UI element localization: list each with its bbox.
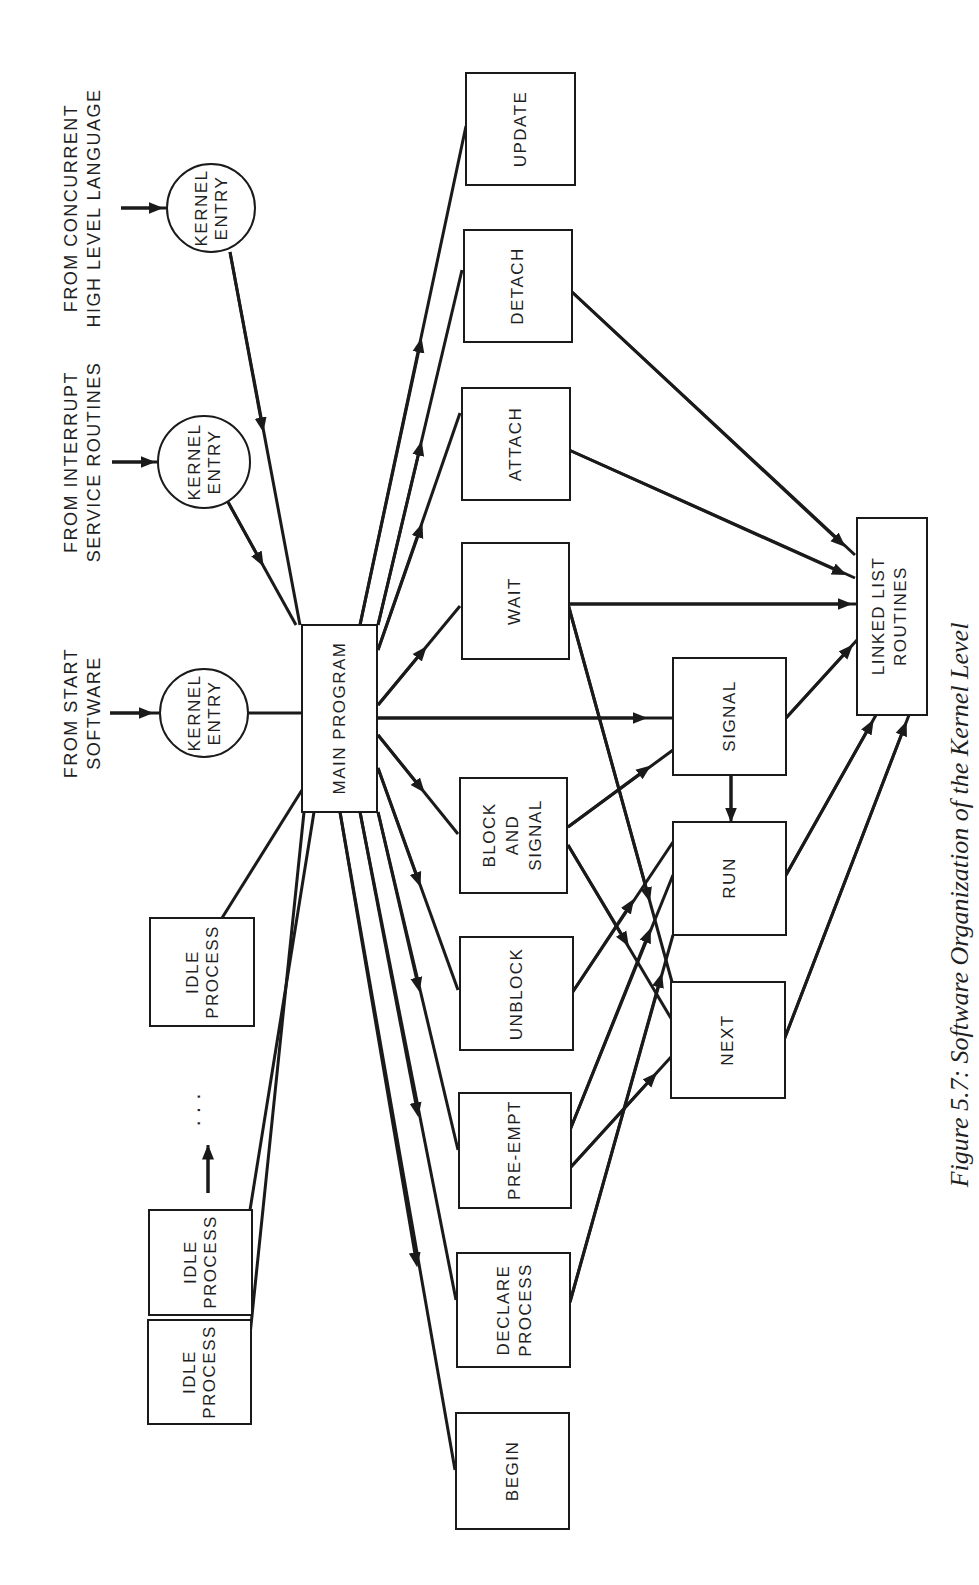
primitive-declare-process: DECLARE PROCESS xyxy=(457,1253,570,1367)
svg-text:SIGNAL: SIGNAL xyxy=(720,680,739,751)
kernel-entry-label-3a: KERNEL xyxy=(192,169,211,246)
svg-text:IDLE: IDLE xyxy=(181,1240,200,1284)
svg-text:WAIT: WAIT xyxy=(505,577,524,625)
kernel-entry-start: KERNEL ENTRY xyxy=(160,669,248,757)
primitive-block-and-signal: BLOCK AND SIGNAL xyxy=(460,778,567,893)
kernel-entry-label-1a: KERNEL xyxy=(185,674,204,751)
svg-text:DETACH: DETACH xyxy=(508,247,527,325)
source-interrupt-line2: SERVICE ROUTINES xyxy=(84,362,104,563)
primitive-detach: DETACH xyxy=(464,230,572,342)
svg-text:PROCESS: PROCESS xyxy=(200,1325,219,1419)
source-labels: FROM START SOFTWARE FROM INTERRUPT SERVI… xyxy=(61,89,104,779)
source-interrupt-line1: FROM INTERRUPT xyxy=(61,371,81,553)
svg-text:BLOCK: BLOCK xyxy=(480,802,499,867)
svg-text:RUN: RUN xyxy=(720,857,739,898)
kernel-entry-concurrent: KERNEL ENTRY xyxy=(167,164,255,252)
ellipsis: · · · xyxy=(185,1093,210,1127)
svg-text:PROCESS: PROCESS xyxy=(203,925,222,1019)
scheduler-run: RUN xyxy=(673,822,786,935)
primitive-pre-empt: PRE-EMPT xyxy=(459,1093,571,1208)
svg-text:BEGIN: BEGIN xyxy=(503,1441,522,1501)
svg-text:PRE-EMPT: PRE-EMPT xyxy=(505,1100,524,1200)
kernel-organization-diagram: FROM START SOFTWARE FROM INTERRUPT SERVI… xyxy=(0,0,979,1585)
linked-list-routines: LINKED LIST ROUTINES xyxy=(857,518,927,715)
svg-text:LINKED LIST: LINKED LIST xyxy=(869,557,888,676)
primitive-begin: BEGIN xyxy=(456,1413,569,1529)
kernel-entry-interrupt: KERNEL ENTRY xyxy=(158,416,250,508)
svg-text:UPDATE: UPDATE xyxy=(511,91,530,168)
edge-idle3-main xyxy=(250,812,304,1335)
source-start-line1: FROM START xyxy=(61,648,81,778)
primitive-attach: ATTACH xyxy=(462,388,570,500)
source-start-line2: SOFTWARE xyxy=(84,656,104,769)
main-program: MAIN PROGRAM xyxy=(302,625,377,812)
svg-text:SIGNAL: SIGNAL xyxy=(526,799,545,870)
svg-text:IDLE: IDLE xyxy=(180,1350,199,1394)
svg-text:PROCESS: PROCESS xyxy=(201,1215,220,1309)
svg-text:AND: AND xyxy=(503,815,522,855)
primitive-unblock: UNBLOCK xyxy=(460,937,573,1050)
svg-text:NEXT: NEXT xyxy=(718,1014,737,1065)
svg-text:UNBLOCK: UNBLOCK xyxy=(507,948,526,1041)
kernel-entry-label-2a: KERNEL xyxy=(185,423,204,500)
scheduler-next: NEXT xyxy=(671,982,785,1098)
kernel-entry-label-1b: ENTRY xyxy=(205,681,224,746)
primitive-update: UPDATE xyxy=(466,73,575,185)
idle-process-2: IDLE PROCESS xyxy=(149,1210,252,1315)
figure-caption: Figure 5.7: Software Organization of the… xyxy=(945,623,974,1189)
source-concurrent-line1: FROM CONCURRENT xyxy=(61,104,81,313)
svg-text:DECLARE: DECLARE xyxy=(494,1265,513,1356)
kernel-entry-label-3b: ENTRY xyxy=(212,176,231,241)
idle-process-3: IDLE PROCESS xyxy=(148,1320,251,1424)
svg-text:ROUTINES: ROUTINES xyxy=(891,566,910,666)
source-concurrent-line2: HIGH LEVEL LANGUAGE xyxy=(84,89,104,328)
main-program-label: MAIN PROGRAM xyxy=(330,641,349,794)
edge-idle1-main xyxy=(222,790,302,918)
primitive-wait: WAIT xyxy=(462,543,569,659)
scheduler-signal: SIGNAL xyxy=(673,658,786,775)
svg-text:ATTACH: ATTACH xyxy=(506,407,525,481)
svg-text:PROCESS: PROCESS xyxy=(516,1263,535,1357)
kernel-entry-label-2b: ENTRY xyxy=(205,430,224,495)
idle-process-1: IDLE PROCESS xyxy=(150,918,254,1026)
svg-text:IDLE: IDLE xyxy=(183,950,202,994)
